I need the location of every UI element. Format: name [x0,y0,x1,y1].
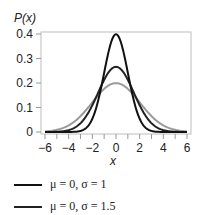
y-axis: 00.10.20.30.4 [16,27,41,139]
y-tick-label: 0 [26,125,33,139]
y-tick-label: 0.1 [16,101,33,115]
y-tick-label: 0.2 [16,76,33,90]
x-tick-label: 4 [160,141,167,155]
curve-sigma-2 [45,83,187,131]
x-axis-label: x [109,154,117,168]
y-tick-label: 0.3 [16,52,33,66]
x-tick-label: 0 [113,141,120,155]
x-axis: −6−4−20246 [38,134,191,155]
x-tick-label: 2 [136,141,143,155]
legend-label: μ = 0, σ = 1.5 [50,199,115,214]
curve-sigma-1-5 [45,67,187,132]
legend-label: μ = 0, σ = 1 [50,177,106,192]
y-axis-label: P(x) [14,11,36,25]
curves [45,34,187,132]
legend-item-sigma-1: μ = 0, σ = 1 [14,177,106,192]
x-tick-label: −2 [85,141,99,155]
legend-swatch [14,184,42,186]
x-tick-label: −6 [38,141,52,155]
x-tick-label: 6 [184,141,191,155]
legend-item-sigma-1-5: μ = 0, σ = 1.5 [14,199,115,214]
legend-swatch [14,206,42,208]
x-tick-label: −4 [62,141,76,155]
y-tick-label: 0.4 [16,27,33,41]
